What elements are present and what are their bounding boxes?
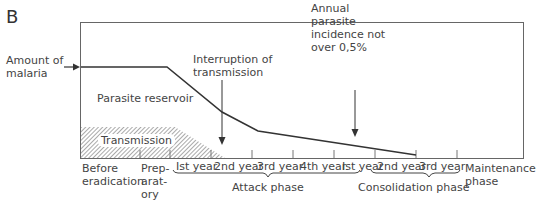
interruption-annotation: Interruption oftransmission: [193, 53, 272, 79]
y-axis-label: Amount ofmalaria: [6, 54, 63, 80]
attack-year-3: 3rd year: [257, 160, 303, 173]
interruption-arrow-icon: [219, 137, 226, 145]
consolidation-phase-label: Consolidation phase: [358, 181, 469, 194]
amount-arrow-icon: [73, 64, 80, 71]
preparatory-label: Prep-arat-ory: [141, 162, 169, 201]
incidence-annotation: Annualparasite incidence notover 0,5%: [311, 2, 385, 54]
consolidation-year-3: 3rd year: [419, 160, 465, 173]
attack-year-4: 4th year: [300, 160, 346, 173]
parasite-reservoir-label: Parasite reservoir: [97, 92, 193, 105]
transmission-label: Transmission: [98, 134, 175, 147]
incidence-arrow-icon: [352, 129, 359, 137]
before-eradication-label: Beforeeradication: [82, 162, 144, 188]
attack-year-2: 2nd year: [214, 160, 263, 173]
attack-year-1: Ist year: [176, 160, 217, 173]
maintenance-phase-label: Maintenancephase: [465, 162, 536, 188]
attack-phase-label: Attack phase: [232, 181, 304, 194]
